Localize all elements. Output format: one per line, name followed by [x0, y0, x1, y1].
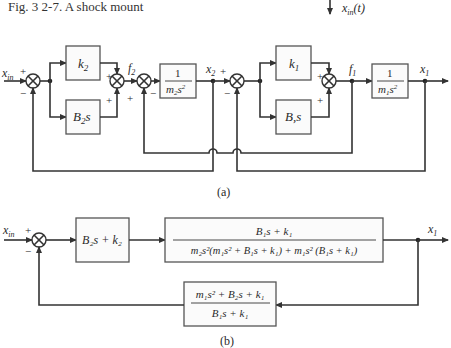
diagram-a: xin + − k2 B2s + + f2 +: [1, 46, 448, 171]
signal-f1: f1: [349, 62, 356, 78]
summing-junction-3: [137, 74, 151, 88]
xin-label-b: xin: [2, 223, 15, 239]
sign-plus: +: [317, 94, 323, 106]
feedback-numerator: m₁s² + B₂s + k₁: [196, 288, 265, 300]
summing-junction-4: [230, 74, 244, 88]
xin-label-a: xin: [1, 66, 14, 82]
block-inv-m2s2-num: 1: [175, 67, 181, 79]
block-diagram: xin(t) xin + − k2 B2s + +: [0, 0, 451, 348]
summing-junction-5: [322, 74, 336, 88]
sign-plus: +: [220, 65, 226, 77]
plant-denominator: m₂s²(m₁s² + B₁s + k₁) + m₁s² (B₁s + k₁): [191, 245, 358, 257]
sign-plus: +: [25, 224, 31, 236]
sign-minus: −: [150, 87, 156, 99]
label-b: (b): [220, 334, 234, 348]
sign-plus: +: [20, 65, 26, 77]
signal-f2: f2: [128, 61, 135, 77]
summing-junction-1: [26, 74, 40, 88]
summing-junction-b: [32, 233, 46, 247]
block-B1s-label: B,s: [285, 109, 301, 124]
block-B2s-plus-k2-label: B₂s + k₂: [82, 233, 122, 247]
sign-minus: −: [25, 245, 31, 257]
signal-x2: x2: [205, 62, 215, 78]
block-inv-m1s2-num: 1: [387, 67, 393, 79]
feedback-denominator: B₁s + k₁: [212, 307, 249, 319]
plant-numerator: B₁s + k₁: [256, 225, 293, 237]
sign-minus: −: [20, 87, 26, 99]
sign-plus: +: [127, 92, 133, 104]
signal-x1: x1: [419, 62, 429, 78]
summing-junction-2: [110, 74, 124, 88]
diagram-b: xin + − B₂s + k₂ B₁s + k₁ m₂s²(m₁s² + B₁…: [2, 218, 448, 326]
sign-plus: +: [106, 94, 112, 106]
label-a: (a): [217, 185, 230, 199]
input-displacement-indicator: xin(t): [330, 0, 365, 17]
sign-minus: −: [224, 87, 230, 99]
xin-t-label: xin(t): [341, 1, 365, 17]
output-x1: x1: [427, 222, 437, 238]
